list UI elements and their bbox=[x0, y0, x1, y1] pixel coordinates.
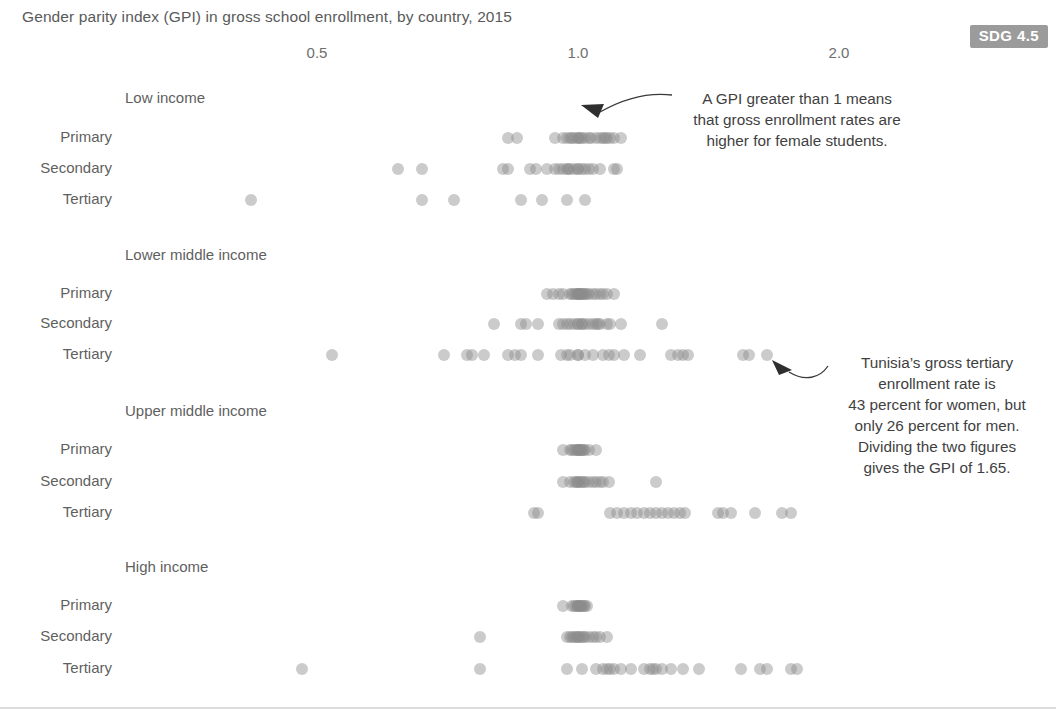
data-point bbox=[590, 444, 602, 456]
data-point bbox=[679, 507, 691, 519]
data-point bbox=[326, 349, 338, 361]
data-point bbox=[536, 194, 548, 206]
data-point bbox=[725, 507, 737, 519]
x-axis-tick-1.0: 1.0 bbox=[568, 44, 589, 61]
row-label-low-income-tertiary: Tertiary bbox=[0, 190, 112, 207]
data-point bbox=[416, 194, 428, 206]
row-label-high-income-secondary: Secondary bbox=[0, 627, 112, 644]
data-point bbox=[656, 318, 668, 330]
data-point bbox=[625, 663, 637, 675]
data-point bbox=[749, 507, 761, 519]
data-point bbox=[603, 476, 615, 488]
data-point bbox=[761, 349, 773, 361]
data-point bbox=[682, 349, 694, 361]
data-point bbox=[511, 132, 523, 144]
row-label-low-income-primary: Primary bbox=[0, 128, 112, 145]
data-point bbox=[576, 663, 588, 675]
data-point bbox=[474, 663, 486, 675]
group-title-high-income: High income bbox=[125, 558, 208, 575]
data-point bbox=[615, 132, 627, 144]
data-point bbox=[650, 476, 662, 488]
row-label-upper-middle-income-tertiary: Tertiary bbox=[0, 503, 112, 520]
group-title-low-income: Low income bbox=[125, 89, 205, 106]
row-label-upper-middle-income-primary: Primary bbox=[0, 440, 112, 457]
group-title-upper-middle-income: Upper middle income bbox=[125, 402, 267, 419]
status-badge: SDG 4.5 bbox=[970, 25, 1048, 48]
row-label-high-income-primary: Primary bbox=[0, 596, 112, 613]
data-point bbox=[515, 194, 527, 206]
row-label-low-income-secondary: Secondary bbox=[0, 159, 112, 176]
data-point bbox=[438, 349, 450, 361]
data-point bbox=[611, 163, 623, 175]
data-point bbox=[579, 194, 591, 206]
annotation-gpi-explainer: A GPI greater than 1 means that gross en… bbox=[672, 88, 922, 151]
data-point bbox=[791, 663, 803, 675]
data-point bbox=[785, 507, 797, 519]
row-label-high-income-tertiary: Tertiary bbox=[0, 659, 112, 676]
data-point bbox=[392, 163, 404, 175]
row-label-upper-middle-income-secondary: Secondary bbox=[0, 472, 112, 489]
data-point bbox=[296, 663, 308, 675]
data-point bbox=[634, 349, 646, 361]
data-point bbox=[474, 631, 486, 643]
data-point bbox=[735, 663, 747, 675]
data-point bbox=[502, 163, 514, 175]
x-axis-tick-2.0: 2.0 bbox=[829, 44, 850, 61]
data-point bbox=[532, 507, 544, 519]
data-point bbox=[561, 663, 573, 675]
data-point bbox=[618, 349, 630, 361]
data-point bbox=[665, 663, 677, 675]
x-axis-tick-0.5: 0.5 bbox=[307, 44, 328, 61]
data-point bbox=[448, 194, 460, 206]
data-point bbox=[594, 163, 606, 175]
data-point bbox=[743, 349, 755, 361]
data-point bbox=[245, 194, 257, 206]
data-point bbox=[581, 600, 593, 612]
chart-canvas: Gender parity index (GPI) in gross schoo… bbox=[0, 0, 1056, 709]
data-point bbox=[515, 349, 527, 361]
data-point bbox=[532, 318, 544, 330]
group-title-lower-middle-income: Lower middle income bbox=[125, 246, 267, 263]
data-point bbox=[693, 663, 705, 675]
data-point bbox=[561, 194, 573, 206]
data-point bbox=[615, 318, 627, 330]
data-point bbox=[488, 318, 500, 330]
data-point bbox=[532, 349, 544, 361]
data-point bbox=[677, 663, 689, 675]
annotation-tunisia: Tunisia’s gross tertiary enrollment rate… bbox=[818, 352, 1056, 478]
data-point bbox=[520, 318, 532, 330]
row-label-lower-middle-income-secondary: Secondary bbox=[0, 314, 112, 331]
row-label-lower-middle-income-primary: Primary bbox=[0, 284, 112, 301]
row-label-lower-middle-income-tertiary: Tertiary bbox=[0, 345, 112, 362]
data-point bbox=[478, 349, 490, 361]
data-point bbox=[608, 288, 620, 300]
data-point bbox=[601, 631, 613, 643]
data-point bbox=[761, 663, 773, 675]
data-point bbox=[466, 349, 478, 361]
page-title: Gender parity index (GPI) in gross schoo… bbox=[22, 8, 512, 26]
data-point bbox=[416, 163, 428, 175]
